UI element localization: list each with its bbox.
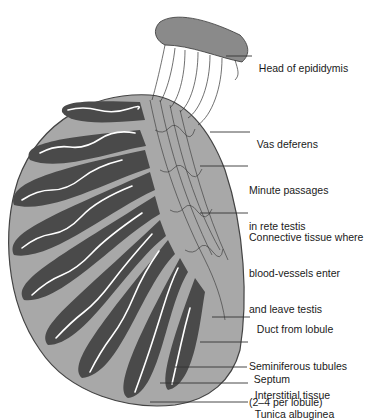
label-tunica-albuginea: Tunica albuginea [249,396,334,420]
label-vas-deferens: Vas deferens [251,126,318,150]
label-duct-from-lobule: Duct from lobule [251,311,333,335]
label-head-of-epididymis: Head of epididymis [253,50,348,74]
label-connective-tissue: Connective tissue where blood-vessels en… [249,207,363,327]
